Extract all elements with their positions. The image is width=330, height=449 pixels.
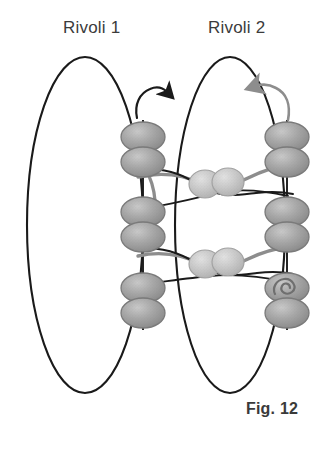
bead-pair-left-2: [121, 197, 165, 252]
bead-pair-right-3: [265, 273, 309, 328]
connector-bead-pair-2: [189, 248, 244, 278]
bead-pair-right-2: [265, 197, 309, 252]
beading-illustration: [0, 0, 330, 449]
ring-outline-right: [175, 57, 285, 393]
bead-pair-right-1: [265, 122, 309, 177]
ring-label-left: Rivoli 1: [63, 18, 120, 38]
bead-pair-left-1: [121, 122, 165, 177]
ring-outline-left: [27, 57, 143, 393]
ring-label-right: Rivoli 2: [208, 18, 265, 38]
figure-caption: Fig. 12: [246, 400, 298, 418]
connector-bead-pair-1: [189, 168, 244, 198]
direction-arrow-left-icon: [136, 88, 167, 118]
figure-diagram: Rivoli 1 Rivoli 2: [0, 0, 330, 449]
bead-pair-left-3: [121, 273, 165, 328]
